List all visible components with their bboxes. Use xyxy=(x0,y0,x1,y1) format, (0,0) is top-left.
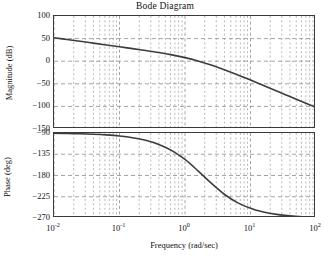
frequency-tick-4: 102 xyxy=(309,221,321,233)
bode-figure: Bode Diagram Magnitude (dB) Phase (deg) … xyxy=(0,0,330,257)
phase-plot-panel xyxy=(53,132,315,217)
magnitude-tick-3: −50 xyxy=(37,78,50,88)
magnitude-plot-panel xyxy=(53,15,315,128)
phase-tick-2: −180 xyxy=(32,170,50,180)
phase-curve xyxy=(54,133,315,217)
frequency-axis-label: Frequency (rad/sec) xyxy=(53,240,315,250)
phase-tick-3: −225 xyxy=(32,191,50,201)
phase-tick-0: −90 xyxy=(37,127,50,137)
phase-curve-layer xyxy=(54,133,315,217)
frequency-tick-0: 10-2 xyxy=(46,221,60,233)
frequency-tick-3: 101 xyxy=(244,221,256,233)
magnitude-tick-1: 50 xyxy=(42,33,51,43)
phase-tick-1: −135 xyxy=(32,148,50,158)
magnitude-axis-label: Magnitude (dB) xyxy=(4,33,14,113)
phase-axis-label: Phase (deg) xyxy=(2,145,12,209)
magnitude-curve xyxy=(54,38,315,108)
frequency-tick-1: 10-1 xyxy=(112,221,126,233)
magnitude-tick-4: −100 xyxy=(32,100,50,110)
magnitude-curve-layer xyxy=(54,16,315,128)
frequency-tick-2: 100 xyxy=(178,221,190,233)
magnitude-tick-0: 100 xyxy=(37,10,50,20)
magnitude-tick-2: 0 xyxy=(46,55,50,65)
